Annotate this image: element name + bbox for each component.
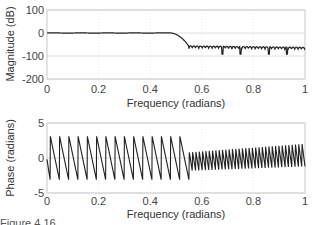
magnitude-yticks: 1000-100-200 [22, 4, 44, 85]
figure-caption-clipped: Figure 4.16 [0, 219, 312, 225]
figure: 1000-100-200 00.20.40.60.81 Magnitude (d… [0, 0, 312, 225]
ytick-label: -100 [22, 50, 44, 62]
caption-text: Figure 4.16 [0, 219, 56, 225]
xtick-label: 0.4 [143, 195, 158, 207]
phase-ylabel: Phase (radians) [4, 119, 16, 197]
magnitude-ylabel: Magnitude (dB) [4, 6, 16, 81]
ytick-label: 5 [38, 117, 44, 129]
xtick-label: 0 [44, 83, 50, 95]
xtick-label: 0.6 [194, 195, 209, 207]
xtick-label: 0.6 [194, 83, 209, 95]
ytick-label: 0 [38, 152, 44, 164]
xtick-label: 0.2 [91, 83, 106, 95]
ytick-label: -5 [34, 187, 44, 199]
phase-plot: 50-5 00.20.40.60.81 Phase (radians) Freq… [4, 117, 308, 220]
xtick-label: 0.8 [246, 195, 261, 207]
xtick-label: 1 [302, 195, 308, 207]
ytick-label: 100 [26, 4, 44, 16]
magnitude-xlabel: Frequency (radians) [127, 97, 225, 109]
xtick-label: 0.2 [91, 195, 106, 207]
phase-xticks: 00.20.40.60.81 [44, 195, 308, 207]
magnitude-axes-box [47, 10, 305, 79]
ytick-label: 0 [38, 27, 44, 39]
xtick-label: 0 [44, 195, 50, 207]
ytick-label: -200 [22, 73, 44, 85]
xtick-label: 1 [302, 83, 308, 95]
xtick-label: 0.8 [246, 83, 261, 95]
xtick-label: 0.4 [143, 83, 158, 95]
magnitude-xticks: 00.20.40.60.81 [44, 83, 308, 95]
phase-yticks: 50-5 [34, 117, 44, 199]
magnitude-plot: 1000-100-200 00.20.40.60.81 Magnitude (d… [4, 4, 308, 109]
